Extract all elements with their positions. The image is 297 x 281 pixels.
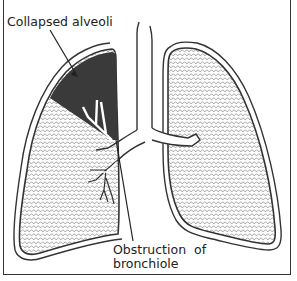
collapsed-alveoli-label: Collapsed alveoli: [7, 15, 113, 29]
left-lung: [14, 43, 122, 260]
bronchiole-label: bronchiole: [113, 257, 178, 271]
obstruction-label: Obstruction of: [113, 243, 206, 257]
lungs-diagram: [0, 0, 297, 281]
collapsed-pointer: [50, 30, 76, 74]
